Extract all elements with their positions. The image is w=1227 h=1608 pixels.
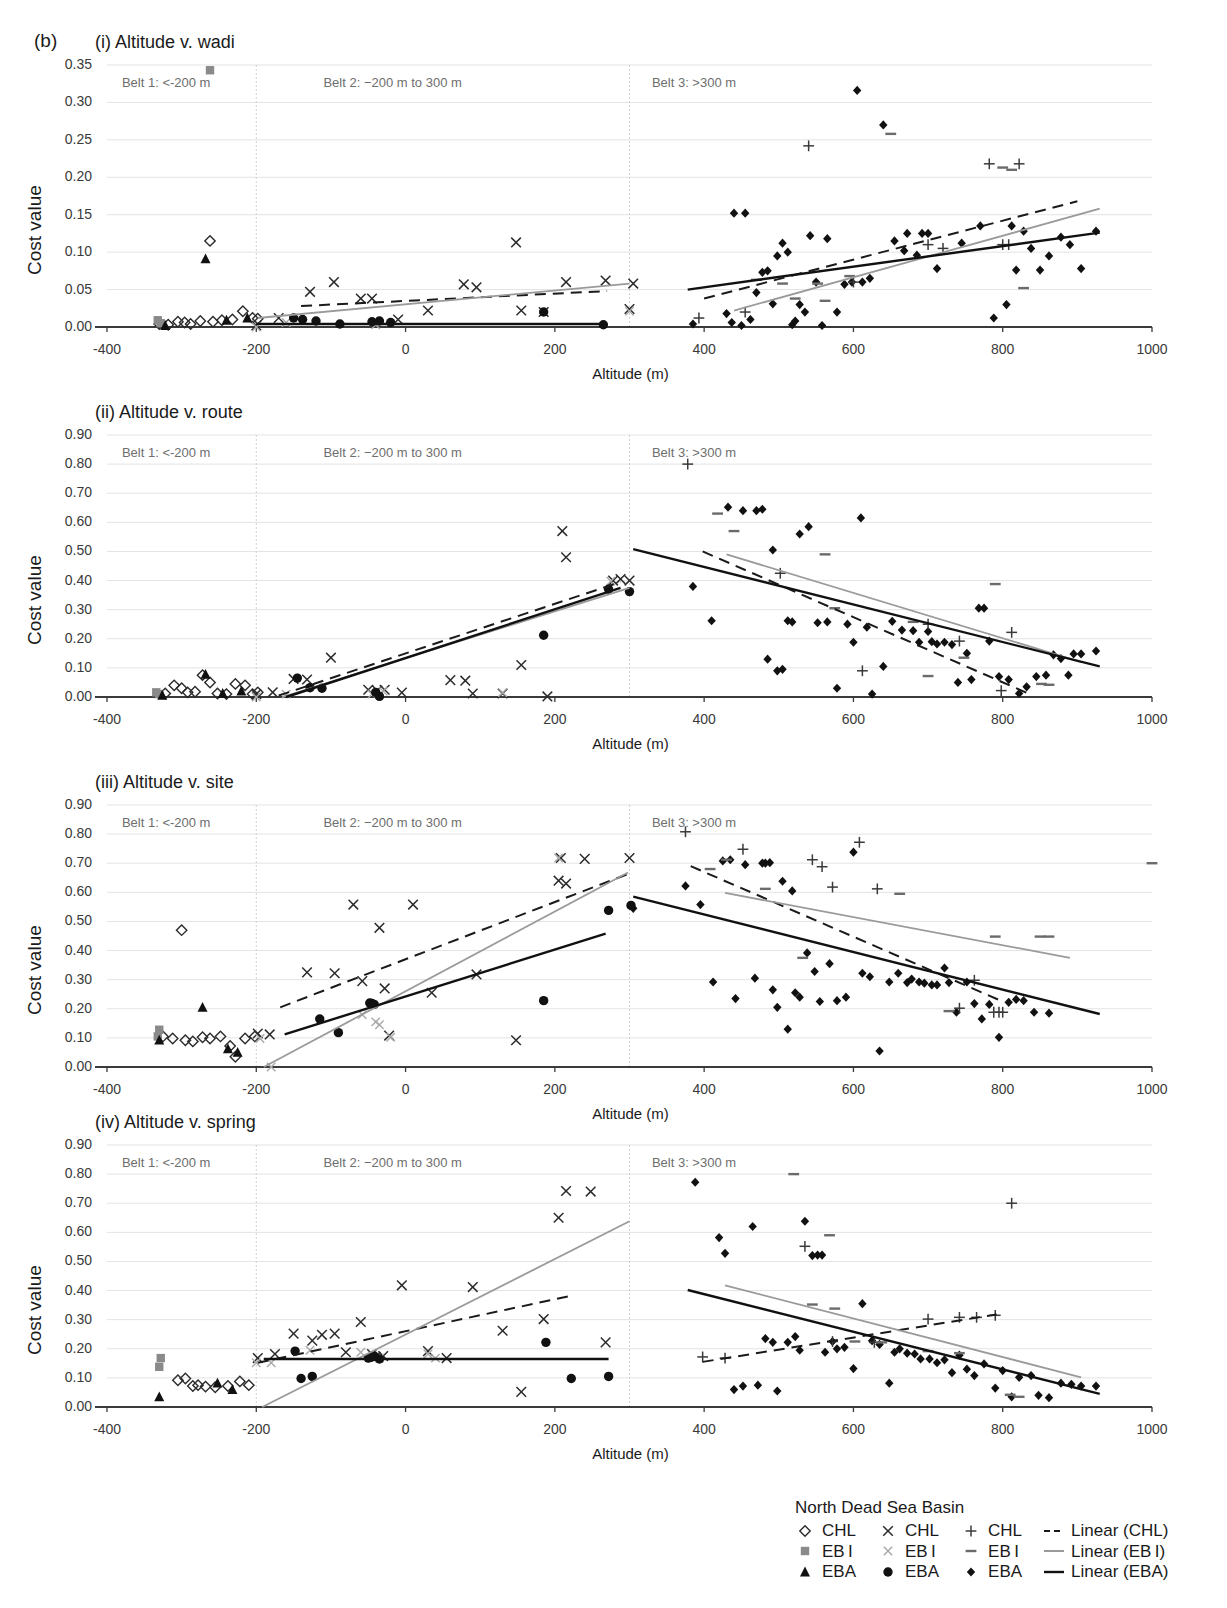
data-point <box>397 688 407 698</box>
data-point <box>963 1365 971 1374</box>
trendline <box>704 201 1077 298</box>
data-point <box>858 277 866 286</box>
data-point <box>773 1386 781 1395</box>
data-point <box>511 238 521 248</box>
legend-item: CHL <box>795 1521 856 1541</box>
data-point <box>728 318 736 327</box>
data-point <box>298 315 307 324</box>
data-point <box>375 923 385 933</box>
data-point <box>933 980 941 989</box>
data-point <box>689 582 697 591</box>
plus-icon <box>961 1524 981 1538</box>
gray-line-icon <box>1044 1544 1064 1558</box>
legend-item: Linear (CHL) <box>1044 1521 1168 1541</box>
x-tick-label: 800 <box>963 1421 1043 1437</box>
data-point <box>691 1178 699 1187</box>
data-point <box>909 626 917 635</box>
data-point <box>833 684 841 693</box>
x-tick-label: 800 <box>963 711 1043 727</box>
data-point <box>925 1354 933 1363</box>
data-point <box>1027 244 1035 253</box>
data-point <box>516 1387 526 1397</box>
x-axis-label-iv: Altitude (m) <box>592 1445 669 1462</box>
data-point <box>498 688 506 696</box>
data-point <box>539 1314 549 1324</box>
gray-square-icon <box>795 1544 815 1558</box>
data-point <box>498 1326 508 1336</box>
data-point <box>601 1338 611 1348</box>
data-point <box>948 1368 956 1377</box>
data-point <box>586 1187 596 1197</box>
x-tick-label: -200 <box>216 1421 296 1437</box>
data-point <box>722 309 730 318</box>
data-point <box>991 1383 999 1392</box>
data-point <box>888 617 896 626</box>
data-point <box>694 313 705 324</box>
data-point <box>561 1186 571 1196</box>
plot-area-i <box>0 20 1227 333</box>
data-point <box>825 959 833 968</box>
data-point <box>978 1014 986 1023</box>
data-point <box>990 313 998 322</box>
data-point <box>539 996 548 1005</box>
trendline <box>725 893 1070 958</box>
x-tick-label: 1000 <box>1112 341 1192 357</box>
data-point <box>773 251 781 260</box>
data-point <box>330 968 340 978</box>
trendline <box>725 1285 1081 1377</box>
data-point <box>681 881 689 890</box>
legend-label: Linear (CHL) <box>1071 1521 1168 1541</box>
data-point <box>1012 266 1020 275</box>
data-point <box>970 999 978 1008</box>
x-light-icon <box>878 1544 898 1558</box>
legend-label: Linear (EB I) <box>1071 1542 1165 1562</box>
legend-item: EB I <box>878 1542 939 1562</box>
plot-area-iv <box>0 1100 1227 1413</box>
data-point <box>833 1344 841 1353</box>
data-point <box>803 948 811 957</box>
legend-label: CHL <box>988 1521 1022 1541</box>
x-tick-label: 400 <box>664 1421 744 1437</box>
data-point <box>541 1338 550 1347</box>
data-point <box>205 677 215 687</box>
plot-area-ii <box>0 390 1227 703</box>
legend-label: EBA <box>822 1562 856 1582</box>
data-point <box>1042 671 1050 680</box>
data-point <box>833 307 841 316</box>
legend-label: CHL <box>905 1521 939 1541</box>
data-point <box>763 655 771 664</box>
x-tick-label: -400 <box>67 341 147 357</box>
data-point <box>818 1250 826 1259</box>
legend-item: EB I <box>961 1542 1022 1562</box>
data-point <box>773 1003 781 1012</box>
data-point <box>751 974 759 983</box>
trendline <box>633 897 1100 1014</box>
data-point <box>800 1566 810 1576</box>
data-point <box>1022 682 1030 691</box>
data-point <box>539 631 548 640</box>
data-point <box>561 552 571 562</box>
data-point <box>916 1354 924 1363</box>
data-point <box>866 274 874 283</box>
data-point <box>910 1349 918 1358</box>
data-point <box>472 283 482 293</box>
data-point <box>423 306 433 316</box>
data-point <box>843 620 851 629</box>
data-point <box>823 234 831 243</box>
legend-label: EB I <box>988 1542 1019 1562</box>
legend-title: North Dead Sea Basin <box>795 1498 1168 1518</box>
data-point <box>788 886 796 895</box>
x-tick-label: 0 <box>366 1421 446 1437</box>
data-point <box>709 977 717 986</box>
x-tick-label: 400 <box>664 341 744 357</box>
data-point <box>795 529 803 538</box>
data-point <box>386 318 395 327</box>
trendline <box>734 209 1100 311</box>
data-point <box>446 675 456 685</box>
data-point <box>741 209 749 218</box>
data-point <box>601 276 611 286</box>
data-point <box>823 617 831 626</box>
data-point <box>746 315 754 324</box>
data-point <box>268 688 278 698</box>
data-point <box>801 307 809 316</box>
